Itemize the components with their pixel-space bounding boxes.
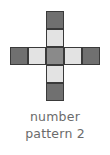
- figure-caption: number pattern 2: [0, 108, 110, 142]
- number-pattern-figure: number pattern 2: [0, 0, 110, 155]
- pattern-cell-empty: [10, 29, 28, 47]
- pattern-cell-dark: [82, 47, 100, 65]
- pattern-cell-empty: [10, 11, 28, 29]
- pattern-cell-empty: [64, 65, 82, 83]
- pattern-cell-dark: [10, 47, 28, 65]
- pattern-cell-light: [64, 47, 82, 65]
- pattern-cell-medium: [46, 47, 64, 65]
- pattern-cell-empty: [64, 29, 82, 47]
- pattern-cell-empty: [82, 65, 100, 83]
- pattern-cell-empty: [82, 29, 100, 47]
- caption-line-1: number: [0, 108, 110, 125]
- pattern-cell-light: [46, 65, 64, 83]
- pattern-cell-empty: [10, 83, 28, 101]
- pattern-cell-dark: [46, 11, 64, 29]
- pattern-cell-empty: [28, 83, 46, 101]
- pattern-cell-light: [46, 29, 64, 47]
- pattern-cell-empty: [82, 83, 100, 101]
- pattern-cell-empty: [82, 11, 100, 29]
- pattern-grid: [10, 11, 100, 101]
- pattern-cell-empty: [64, 83, 82, 101]
- pattern-cell-empty: [28, 29, 46, 47]
- pattern-cell-empty: [10, 65, 28, 83]
- pattern-cell-empty: [28, 65, 46, 83]
- pattern-cell-empty: [28, 11, 46, 29]
- pattern-cell-dark: [46, 83, 64, 101]
- pattern-cell-light: [28, 47, 46, 65]
- caption-line-2: pattern 2: [0, 125, 110, 142]
- pattern-cell-empty: [64, 11, 82, 29]
